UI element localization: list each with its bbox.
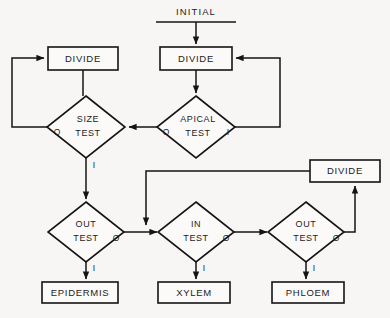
node-size-test-label-2: TEST: [75, 128, 100, 138]
size-test-zero-label: O: [54, 127, 61, 137]
node-out-test-right[interactable]: [268, 202, 344, 262]
figure-canvas: INITIAL DIVIDE DIVIDE SIZE TEST O I APIC…: [0, 0, 390, 318]
edge-apical-one-to-divide-right: [235, 58, 280, 127]
node-apical-test-label-1: APICAL: [180, 114, 216, 124]
edge-size-zero-to-divide-left: [12, 58, 47, 127]
node-xylem-label: XYLEM: [176, 287, 212, 298]
out-test-right-zero-label: O: [333, 233, 340, 243]
node-epidermis-label: EPIDERMIS: [51, 287, 110, 298]
entry-label: INITIAL: [176, 6, 216, 17]
node-out-test-right-label-2: TEST: [293, 233, 318, 243]
node-size-test-label-1: SIZE: [77, 114, 99, 124]
in-test-zero-label: O: [223, 233, 230, 243]
size-test-one-label: I: [93, 160, 95, 170]
node-divide-left-label: DIVIDE: [65, 53, 101, 64]
out-test-right-one-label: I: [313, 263, 315, 273]
out-test-left-zero-label: O: [113, 233, 120, 243]
in-test-one-label: I: [203, 263, 205, 273]
node-in-test-label-1: IN: [191, 219, 201, 229]
edge-divide-bottom-to-in-test: [146, 171, 310, 225]
node-out-test-left-label-2: TEST: [73, 233, 98, 243]
out-test-left-one-label: I: [93, 263, 95, 273]
node-out-test-right-label-1: OUT: [296, 219, 317, 229]
apical-test-zero-label: O: [163, 127, 170, 137]
node-phloem-label: PHLOEM: [286, 287, 330, 298]
node-in-test[interactable]: [158, 202, 234, 262]
node-divide-right-label: DIVIDE: [178, 53, 214, 64]
apical-test-one-label: I: [227, 127, 229, 137]
node-apical-test-label-2: TEST: [185, 128, 210, 138]
node-out-test-left[interactable]: [48, 202, 124, 262]
flowchart-svg: INITIAL DIVIDE DIVIDE SIZE TEST O I APIC…: [0, 0, 390, 318]
edge-out-test-right-zero-to-divide-bottom: [344, 186, 355, 232]
node-in-test-label-2: TEST: [183, 233, 208, 243]
node-out-test-left-label-1: OUT: [76, 219, 97, 229]
node-divide-bottom-label: DIVIDE: [327, 165, 363, 176]
